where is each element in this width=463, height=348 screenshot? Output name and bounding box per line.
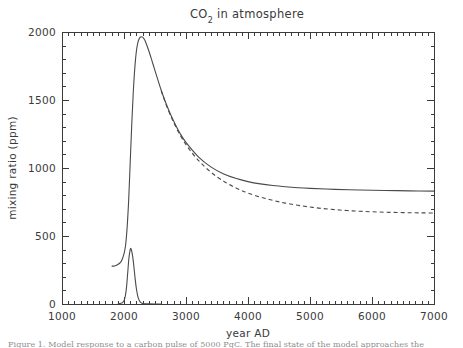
y-axis-label: mixing ratio (ppm): [6, 116, 18, 220]
svg-text:2000: 2000: [110, 310, 138, 322]
series-path-1: [161, 91, 434, 213]
page-caption: Figure 1. Model response to a carbon pul…: [8, 341, 424, 348]
series-path-2: [118, 248, 161, 304]
svg-text:5000: 5000: [296, 310, 324, 322]
co2-line-chart: CO2 in atmosphere 1000200030004000500060…: [0, 0, 463, 348]
svg-text:0: 0: [49, 298, 56, 310]
svg-text:500: 500: [35, 230, 56, 242]
plot-frame: [62, 32, 434, 304]
svg-text:4000: 4000: [234, 310, 262, 322]
svg-text:7000: 7000: [420, 310, 448, 322]
svg-text:1500: 1500: [28, 94, 56, 106]
y-axis-ticks: [62, 33, 434, 305]
svg-text:1000: 1000: [48, 310, 76, 322]
y-axis-tick-labels: 0500100015002000: [28, 26, 56, 310]
x-axis-ticks: [63, 32, 435, 304]
figure-container: CO2 in atmosphere 1000200030004000500060…: [0, 0, 463, 348]
page-caption-strip: Figure 1. Model response to a carbon pul…: [0, 341, 463, 348]
x-axis-label: year AD: [226, 327, 270, 339]
svg-text:3000: 3000: [172, 310, 200, 322]
svg-text:1000: 1000: [28, 162, 56, 174]
x-axis-tick-labels: 1000200030004000500060007000: [48, 310, 448, 322]
svg-text:6000: 6000: [358, 310, 386, 322]
svg-text:2000: 2000: [28, 26, 56, 38]
series-path-0: [112, 37, 434, 266]
data-series-group: [112, 37, 434, 304]
chart-title: CO2 in atmosphere: [190, 7, 304, 25]
